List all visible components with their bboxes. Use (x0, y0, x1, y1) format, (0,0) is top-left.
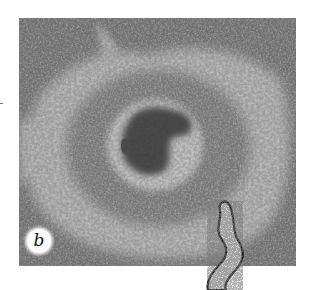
panel-label: b (27, 229, 51, 253)
photo-frame (19, 18, 296, 266)
edge-tick-mark (0, 103, 3, 104)
